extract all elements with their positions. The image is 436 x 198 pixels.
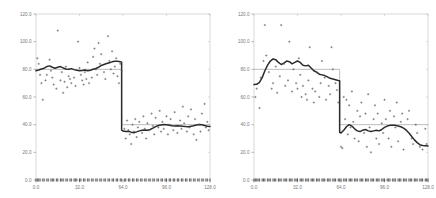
data-point [325, 99, 327, 101]
plot-frame [254, 14, 428, 180]
data-point [42, 99, 44, 101]
data-point [421, 148, 423, 150]
data-point [394, 126, 396, 128]
data-point [363, 132, 365, 134]
data-point [279, 75, 281, 77]
data-point [125, 137, 127, 139]
data-point [135, 136, 137, 138]
data-point [356, 110, 358, 112]
data-point [176, 132, 178, 134]
data-point [100, 53, 102, 55]
data-point [336, 89, 338, 91]
data-point [110, 68, 112, 70]
data-point [359, 115, 361, 117]
y-tick-label: 20.0 [241, 150, 250, 155]
data-point [141, 132, 143, 134]
data-point [292, 68, 294, 70]
data-point [66, 86, 68, 88]
data-point [389, 110, 391, 112]
data-point [254, 96, 256, 98]
data-point [370, 151, 372, 153]
data-point [69, 78, 71, 80]
data-point [364, 113, 366, 115]
data-point [74, 85, 76, 87]
data-point [68, 75, 70, 77]
data-point [265, 54, 267, 56]
data-point [193, 133, 195, 135]
data-point [313, 101, 315, 103]
data-point [63, 81, 65, 83]
data-point [306, 99, 308, 101]
data-point [387, 137, 389, 139]
data-point [295, 82, 297, 84]
data-point [92, 56, 94, 58]
data-point [349, 126, 351, 128]
data-point [39, 74, 41, 76]
data-point [268, 71, 270, 73]
data-point [194, 118, 196, 120]
estimated-curve-line [254, 59, 428, 146]
y-tick-label: 0.0 [243, 178, 250, 183]
data-point [111, 50, 113, 52]
data-point [314, 90, 316, 92]
data-point [87, 61, 89, 63]
y-tick-label: 100.0 [20, 39, 32, 44]
data-point [180, 128, 182, 130]
data-point [70, 82, 72, 84]
data-point [309, 46, 311, 48]
data-point [195, 139, 197, 141]
true-signal-line [36, 69, 210, 124]
true-signal-line [254, 69, 428, 124]
y-tick-label: 120.0 [20, 12, 32, 17]
data-point [187, 115, 189, 117]
data-point [332, 68, 334, 70]
data-point [208, 129, 210, 131]
data-point [284, 85, 286, 87]
data-point [262, 60, 264, 62]
y-tick-label: 80.0 [23, 67, 32, 72]
data-point [179, 119, 181, 121]
data-point [318, 96, 320, 98]
data-point [328, 85, 330, 87]
x-tick-label: 128.0 [422, 185, 434, 190]
data-point [107, 35, 109, 37]
data-point [344, 118, 346, 120]
data-point [51, 77, 53, 79]
data-point [62, 92, 64, 94]
data-point [334, 82, 336, 84]
data-point [396, 101, 398, 103]
x-tick-label: 32.0 [293, 185, 302, 190]
x-tick-label: 0.0 [33, 185, 40, 190]
data-point [167, 133, 169, 135]
data-point [276, 92, 278, 94]
data-point [307, 79, 309, 81]
data-point [340, 146, 342, 148]
data-point [116, 75, 118, 77]
data-point [57, 30, 59, 32]
data-point [264, 24, 266, 26]
data-point [104, 78, 106, 80]
x-tick-label: 96.0 [162, 185, 171, 190]
y-tick-label: 40.0 [23, 122, 32, 127]
data-point [78, 67, 80, 69]
data-point [343, 96, 345, 98]
data-point [320, 82, 322, 84]
data-point [256, 88, 258, 90]
data-point [408, 110, 410, 112]
data-point [373, 118, 375, 120]
data-point [347, 133, 349, 135]
data-point [324, 77, 326, 79]
data-point [412, 143, 414, 145]
data-point [93, 47, 95, 49]
data-point [377, 113, 379, 115]
data-point [142, 115, 144, 117]
data-point [114, 65, 116, 67]
data-point [53, 83, 55, 85]
data-point [112, 72, 114, 74]
data-point [390, 146, 392, 148]
data-point [88, 82, 90, 84]
data-point [153, 133, 155, 135]
data-point [298, 57, 300, 59]
data-point [287, 79, 289, 81]
data-point [300, 96, 302, 98]
